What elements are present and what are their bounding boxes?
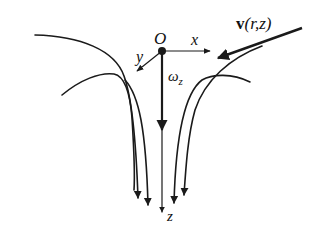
y-axis-label: y: [134, 48, 144, 66]
streamline-outer-left: [35, 35, 138, 198]
streamline-inner-left: [62, 74, 134, 190]
streamline-left-branch: [125, 80, 148, 205]
coordinate-axes: [137, 47, 210, 130]
velocity-label: v(r,z): [236, 14, 272, 33]
x-axis-label: x: [190, 31, 198, 48]
origin-point: [158, 47, 166, 55]
origin-label: O: [154, 29, 166, 48]
streamline-outer-right: [184, 46, 262, 195]
vortex-diagram: O x y z ωz v(r,z): [0, 0, 321, 235]
omega-label: ωz: [168, 68, 184, 87]
z-axis-label: z: [166, 208, 173, 224]
